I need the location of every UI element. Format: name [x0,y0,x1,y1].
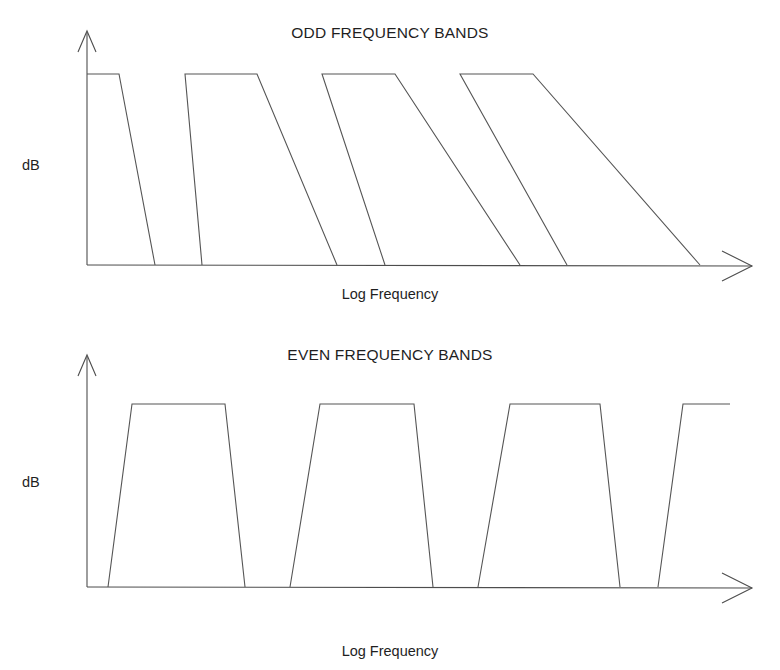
band-trapezoid-3-odd [322,74,520,265]
chart-title-even: EVEN FREQUENCY BANDS [190,346,590,364]
band-trapezoid-4-even [658,404,730,587]
y-axis-label-even: dB [22,474,40,490]
x-axis-label-even: Log Frequency [230,643,550,659]
x-axis-label-odd: Log Frequency [230,286,550,302]
even-bands-plot [0,335,780,670]
band-trapezoid-2-even [290,404,433,587]
odd-bands-plot [0,0,780,335]
x-axis-line-even [87,587,752,588]
chart-panel-even: EVEN FREQUENCY BANDS dB Log Frequency [0,335,780,670]
band-trapezoid-3-even [478,404,620,587]
band-trapezoid-1-even [108,404,245,587]
band-trapezoid-1-odd [87,74,155,265]
band-trapezoid-4-odd [460,74,700,265]
chart-panel-odd: ODD FREQUENCY BANDS dB Log Frequency [0,0,780,335]
x-axis-line-odd [87,265,752,266]
band-trapezoid-2-odd [185,74,337,265]
y-axis-label-odd: dB [22,157,40,173]
chart-title-odd: ODD FREQUENCY BANDS [190,24,590,42]
frequency-bands-figure: ODD FREQUENCY BANDS dB Log Frequency EVE… [0,0,780,670]
